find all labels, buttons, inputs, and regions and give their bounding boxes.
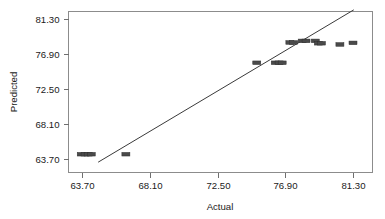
data-point-marker [290,41,298,45]
data-point-marker [253,61,261,65]
data-point-marker [302,39,310,43]
data-point-marker [278,61,286,65]
data-point-marker [349,41,357,45]
figure-background [0,0,385,219]
y-tick-label: 68.10 [35,119,59,130]
x-tick-label: 63.70 [70,180,94,191]
x-tick-label: 81.30 [341,180,365,191]
x-tick-label: 72.50 [206,180,230,191]
x-tick-label: 68.10 [138,180,162,191]
data-point-marker [336,43,344,47]
y-tick-label: 63.70 [35,154,59,165]
scatter-plot-figure: 63.7068.1072.5076.9081.30 63.7068.1072.5… [0,0,385,219]
data-point-marker [87,152,95,156]
y-tick-label: 81.30 [35,14,59,25]
y-tick-label: 72.50 [35,84,59,95]
data-point-marker [317,41,325,45]
x-axis-title: Actual [207,201,234,212]
y-axis-title: Predicted [8,72,19,113]
x-tick-label: 76.90 [273,180,297,191]
plot-canvas: 63.7068.1072.5076.9081.30 63.7068.1072.5… [0,0,385,219]
data-point-marker [122,152,130,156]
y-tick-label: 76.90 [35,49,59,60]
